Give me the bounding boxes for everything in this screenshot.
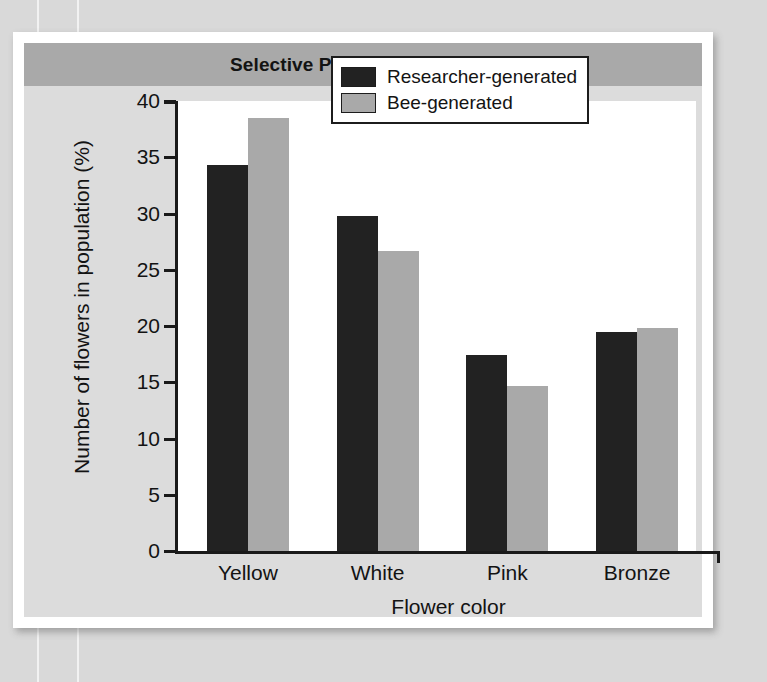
y-axis-tick-label: 25 [120,258,160,282]
bar-group [207,101,289,551]
y-axis-tick [164,494,176,497]
x-axis-tick-labels: YellowWhitePinkBronze [177,561,720,591]
y-axis-tick-label: 15 [120,370,160,394]
legend-item: Bee-generated [341,90,577,116]
y-axis-tick-label: 5 [120,483,160,507]
y-axis-tick-label: 30 [120,202,160,226]
legend-swatch [341,67,376,87]
chart-legend: Researcher-generatedBee-generated [331,56,589,124]
y-axis-tick [164,100,176,103]
bar [466,355,507,551]
bar [248,118,289,551]
figure-card: Selective Pollination by Bees 0510152025… [13,32,713,628]
y-axis-tick [164,325,176,328]
legend-swatch [341,93,376,113]
y-axis-tick [164,156,176,159]
bar [507,386,548,551]
bar [637,328,678,551]
bar [207,165,248,551]
y-axis-title: Number of flowers in population (%) [70,107,94,507]
legend-label: Researcher-generated [387,66,577,88]
y-axis-tick [164,550,176,553]
bars-layer [177,101,696,551]
figure-panel: Selective Pollination by Bees 0510152025… [24,43,702,617]
legend-item: Researcher-generated [341,64,577,90]
bar [337,216,378,551]
x-axis-tick-label: White [308,561,448,585]
x-axis-tick-label: Bronze [567,561,707,585]
x-axis-title: Flower color [177,595,720,619]
bar-group [596,101,678,551]
y-axis-tick-label: 40 [120,89,160,113]
y-axis-tick [164,381,176,384]
y-axis-tick [164,438,176,441]
bar [596,332,637,551]
y-axis-tick-label: 20 [120,314,160,338]
y-axis-tick-label: 10 [120,427,160,451]
bar [378,251,419,551]
x-axis-tick-label: Pink [437,561,577,585]
y-axis-tick-label: 35 [120,145,160,169]
bar-group [466,101,548,551]
y-axis-tick [164,269,176,272]
y-axis-tick-label: 0 [120,539,160,563]
y-axis-tick [164,213,176,216]
legend-label: Bee-generated [387,92,513,114]
x-axis-line [175,551,720,554]
x-axis-tick-label: Yellow [178,561,318,585]
bar-group [337,101,419,551]
